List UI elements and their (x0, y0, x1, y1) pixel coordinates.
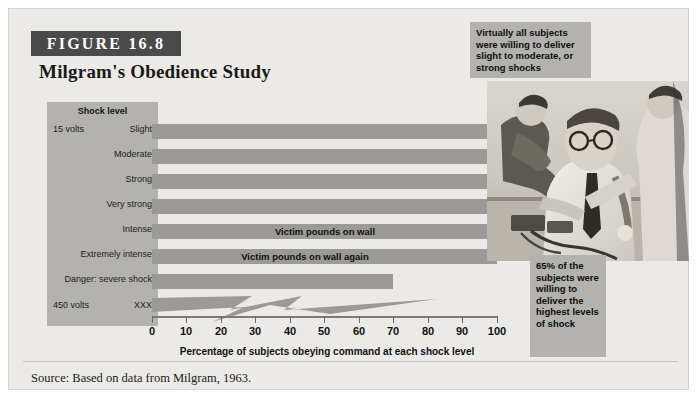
category-label-very-strong: Very strong (106, 199, 152, 209)
x-tick-70 (393, 316, 394, 323)
x-ticklabel-30: 30 (249, 325, 261, 337)
bar-slight (152, 124, 497, 139)
x-ticklabel-50: 50 (318, 325, 330, 337)
x-axis-title: Percentage of subjects obeying command a… (152, 346, 502, 357)
figure-frame: FIGURE 16.8 Milgram's Obedience Study Sh… (8, 8, 689, 390)
bar-strong (152, 174, 497, 189)
x-tick-50 (324, 316, 325, 323)
x-tick-30 (255, 316, 256, 323)
milgram-experiment-photo (487, 81, 689, 261)
x-ticklabel-90: 90 (456, 325, 468, 337)
bar-annotation-extremely-intense: Victim pounds on wall again (190, 249, 420, 264)
x-ticklabel-70: 70 (387, 325, 399, 337)
x-tick-60 (359, 316, 360, 323)
callout-top: Virtually all subjects were willing to d… (470, 22, 591, 78)
x-ticklabel-40: 40 (284, 325, 296, 337)
x-ticklabel-0: 0 (149, 325, 155, 337)
x-ticklabel-60: 60 (353, 325, 365, 337)
x-tick-90 (462, 316, 463, 323)
x-tick-20 (221, 316, 222, 323)
bar-very-strong (152, 199, 497, 214)
x-tick-40 (290, 316, 291, 323)
category-label-intense: Intense (122, 224, 152, 234)
x-tick-0 (152, 316, 153, 323)
bar-danger-severe-shock (152, 274, 393, 289)
category-label-extremely-intense: Extremely intense (80, 249, 152, 259)
figure-page: FIGURE 16.8 Milgram's Obedience Study Sh… (0, 0, 697, 398)
volt-label-low: 15 volts (53, 124, 84, 134)
x-tick-80 (428, 316, 429, 323)
photo-illustration (487, 81, 689, 261)
x-tick-100 (497, 316, 498, 323)
bar-moderate (152, 149, 497, 164)
volt-label-high: 450 volts (53, 300, 89, 310)
shock-level-header: Shock level (47, 106, 158, 116)
category-label-slight: Slight (129, 124, 152, 134)
footer-divider (23, 361, 678, 362)
source-note: Source: Based on data from Milgram, 1963… (31, 371, 251, 386)
bar-xxx-lightning (152, 292, 452, 327)
x-ticklabel-20: 20 (215, 325, 227, 337)
category-label-moderate: Moderate (114, 149, 152, 159)
callout-bottom: 65% of the subjects were willing to deli… (530, 255, 606, 357)
shock-level-panel: Shock level 15 volts 450 volts Slight Mo… (47, 102, 158, 326)
x-ticklabel-80: 80 (422, 325, 434, 337)
x-ticklabel-10: 10 (180, 325, 192, 337)
x-tick-10 (186, 316, 187, 323)
x-ticklabel-100: 100 (488, 325, 506, 337)
category-label-strong: Strong (125, 174, 152, 184)
bar-annotation-intense: Victim pounds on wall (210, 224, 440, 239)
category-label-danger-severe-shock: Danger: severe shock (64, 274, 152, 284)
bars-container: Victim pounds on wall Victim pounds on w… (152, 102, 512, 314)
category-label-xxx: XXX (134, 300, 152, 310)
